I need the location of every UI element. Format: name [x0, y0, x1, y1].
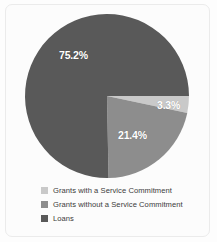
- chart-figure: 75.2% 21.4% 3.3% Grants with a Service C…: [0, 0, 217, 242]
- legend-item-label: Loans: [53, 214, 74, 223]
- legend-swatch-icon: [41, 201, 48, 208]
- legend-swatch-icon: [41, 215, 48, 222]
- pie-chart-plot-area: 75.2% 21.4% 3.3%: [0, 0, 217, 190]
- legend-item-grants-with-service-commitment[interactable]: Grants with a Service Commitment: [41, 184, 201, 197]
- pie-label-grants-without-service-commitment: 21.4%: [118, 129, 147, 141]
- pie-label-loans: 75.2%: [59, 49, 88, 61]
- legend-swatch-icon: [41, 187, 48, 194]
- pie-chart-svg: [0, 0, 217, 190]
- chart-legend: Grants with a Service Commitment Grants …: [41, 184, 201, 226]
- pie-label-grants-with-service-commitment: 3.3%: [157, 99, 180, 111]
- legend-item-label: Grants without a Service Commitment: [53, 200, 183, 209]
- legend-item-grants-without-service-commitment[interactable]: Grants without a Service Commitment: [41, 198, 201, 211]
- legend-item-loans[interactable]: Loans: [41, 212, 201, 225]
- legend-item-label: Grants with a Service Commitment: [53, 186, 172, 195]
